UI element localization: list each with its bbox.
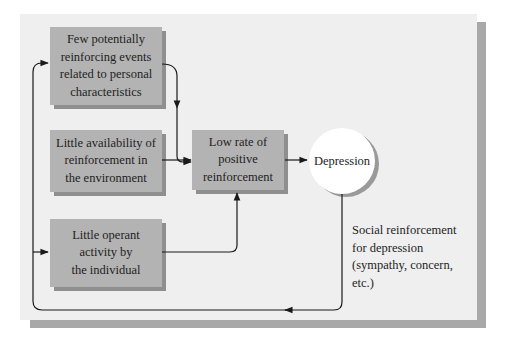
edge-feedback-loop <box>33 63 287 310</box>
edge-depression-feedback-bottom <box>285 194 342 310</box>
edge-personal-to-low-rate <box>162 64 177 108</box>
edge-activity-to-low-rate <box>162 193 237 252</box>
edge-personal-to-low-rate-cont <box>177 108 191 162</box>
connector-layer <box>0 0 507 340</box>
